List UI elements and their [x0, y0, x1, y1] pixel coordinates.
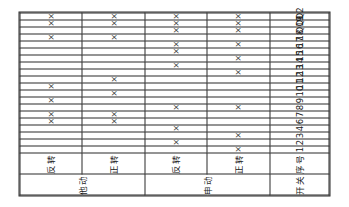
scanned-table-page: 他动反转×××××××正转×××××××申动反转×××××××××正转×××××… [0, 0, 349, 207]
empty-cell [82, 139, 144, 146]
column-number: 11 [270, 83, 329, 90]
row-label: 反转 [145, 153, 207, 174]
mark-cell: × [20, 118, 82, 125]
cross-mark-icon: × [47, 110, 56, 117]
empty-cell [145, 97, 207, 104]
mark-cell: × [145, 27, 207, 34]
empty-cell [20, 132, 82, 139]
empty-cell [20, 76, 82, 83]
empty-cell [20, 41, 82, 48]
mark-cell: × [207, 132, 269, 139]
empty-cell [20, 146, 82, 153]
empty-cell [145, 76, 207, 83]
empty-cell [207, 34, 269, 41]
empty-cell [20, 27, 82, 34]
empty-cell [145, 83, 207, 90]
corner-label-index: 序号 [270, 153, 329, 174]
mark-cell: × [207, 146, 269, 153]
cross-mark-icon: × [234, 145, 243, 152]
mark-cell: × [20, 20, 82, 27]
mark-cell: × [145, 62, 207, 69]
cross-mark-icon: × [109, 75, 118, 82]
cross-mark-icon: × [234, 68, 243, 75]
column-number: 12 [270, 76, 329, 83]
empty-cell [82, 104, 144, 111]
empty-cell [145, 69, 207, 76]
cross-mark-icon: × [234, 26, 243, 33]
table-row: 他动反转××××××× [20, 13, 82, 195]
mark-cell: × [82, 111, 144, 118]
cross-mark-icon: × [109, 19, 118, 26]
mark-cell: × [20, 97, 82, 104]
row-label: 反转 [20, 153, 82, 174]
mark-cell: × [207, 55, 269, 62]
mark-cell: × [82, 20, 144, 27]
mark-cell: × [207, 13, 269, 20]
table-row: 申动反转××××××××× [145, 13, 207, 195]
cross-mark-icon: × [109, 110, 118, 117]
empty-cell [82, 55, 144, 62]
empty-cell [145, 146, 207, 153]
band-label: 他动 [20, 174, 145, 195]
empty-cell [20, 48, 82, 55]
mark-cell: × [82, 118, 144, 125]
mark-cell: × [145, 13, 207, 20]
empty-cell [207, 76, 269, 83]
empty-cell [20, 125, 82, 132]
cross-mark-icon: × [47, 82, 56, 89]
mark-cell: × [20, 83, 82, 90]
empty-cell [82, 125, 144, 132]
empty-cell [82, 69, 144, 76]
empty-cell [207, 90, 269, 97]
mark-cell: × [82, 34, 144, 41]
switch-rotation-table: 他动反转×××××××正转×××××××申动反转×××××××××正转×××××… [20, 12, 330, 195]
corner-label-switch: 开关 [270, 174, 329, 195]
empty-cell [207, 62, 269, 69]
column-number: 15 [270, 55, 329, 62]
column-number: 14 [270, 62, 329, 69]
cross-mark-icon: × [234, 19, 243, 26]
cross-mark-icon: × [172, 138, 181, 145]
cross-mark-icon: × [172, 12, 181, 19]
column-header-row: 开关序号12346789101112131415161718Q19Q1Q2 [270, 13, 329, 195]
cross-mark-icon: × [234, 12, 243, 19]
empty-cell [145, 132, 207, 139]
column-number: 1 [270, 146, 329, 153]
mark-cell: × [145, 20, 207, 27]
cross-mark-icon: × [172, 61, 181, 68]
column-number: 2 [270, 139, 329, 146]
mark-cell: × [145, 48, 207, 55]
mark-cell: × [207, 27, 269, 34]
empty-cell [207, 139, 269, 146]
empty-cell [82, 41, 144, 48]
empty-cell [20, 104, 82, 111]
empty-cell [207, 125, 269, 132]
rotated-table-wrapper: 他动反转×××××××正转×××××××申动反转×××××××××正转×××××… [20, 12, 330, 195]
cross-mark-icon: × [172, 47, 181, 54]
empty-cell [20, 55, 82, 62]
table-body: 他动反转×××××××正转×××××××申动反转×××××××××正转×××××… [20, 13, 329, 195]
empty-cell [82, 62, 144, 69]
empty-cell [207, 97, 269, 104]
mark-cell: × [207, 104, 269, 111]
empty-cell [207, 111, 269, 118]
cross-mark-icon: × [234, 131, 243, 138]
cross-mark-icon: × [109, 89, 118, 96]
mark-cell: × [20, 111, 82, 118]
column-number: Q19 [270, 27, 329, 34]
empty-cell [82, 27, 144, 34]
column-number: 7 [270, 111, 329, 118]
mark-cell: × [207, 20, 269, 27]
mark-cell: × [82, 90, 144, 97]
column-number: Q1 [270, 20, 329, 27]
table-row: 正转××××××××× [207, 13, 269, 195]
cross-mark-icon: × [172, 124, 181, 131]
column-number: 17 [270, 41, 329, 48]
mark-cell: × [207, 41, 269, 48]
empty-cell [82, 48, 144, 55]
mark-cell: × [207, 69, 269, 76]
cross-mark-icon: × [47, 117, 56, 124]
mark-cell: × [20, 13, 82, 20]
empty-cell [20, 90, 82, 97]
empty-cell [20, 69, 82, 76]
